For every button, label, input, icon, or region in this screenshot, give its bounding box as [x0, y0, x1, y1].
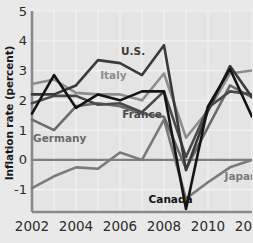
series-label-germany: Germany — [33, 132, 86, 144]
series-label-japan: Japan — [224, 170, 253, 182]
y-tick-label: -1 — [14, 182, 27, 197]
y-tick-label: 0 — [19, 152, 27, 167]
series-label-france: France — [122, 108, 162, 120]
x-tick-label: 2008 — [147, 218, 181, 234]
series-label-canada: Canada — [149, 193, 193, 205]
x-tick-label: 2006 — [103, 218, 137, 234]
x-tick-label: 2012 — [235, 218, 252, 234]
y-axis-title-text: Inflation rate (percent) — [3, 46, 15, 181]
x-tick-label: 2002 — [15, 218, 49, 234]
y-axis-title: Inflation rate (percent) — [3, 46, 15, 181]
y-tick-label: 3 — [19, 63, 27, 78]
y-tick-label: 2 — [19, 93, 27, 108]
inflation-rate-line-chart: 543210-1 200220042006200820102012 U.S.It… — [0, 0, 252, 243]
x-tick-label: 2004 — [59, 218, 93, 234]
y-tick-label: 1 — [19, 123, 27, 138]
x-tick-label: 2010 — [191, 218, 225, 234]
chart-canvas: 543210-1 200220042006200820102012 U.S.It… — [0, 0, 252, 243]
y-tick-label: 4 — [19, 33, 27, 48]
series-label-us: U.S. — [121, 45, 145, 57]
y-tick-label: 5 — [19, 4, 27, 19]
series-label-italy: Italy — [100, 69, 127, 81]
